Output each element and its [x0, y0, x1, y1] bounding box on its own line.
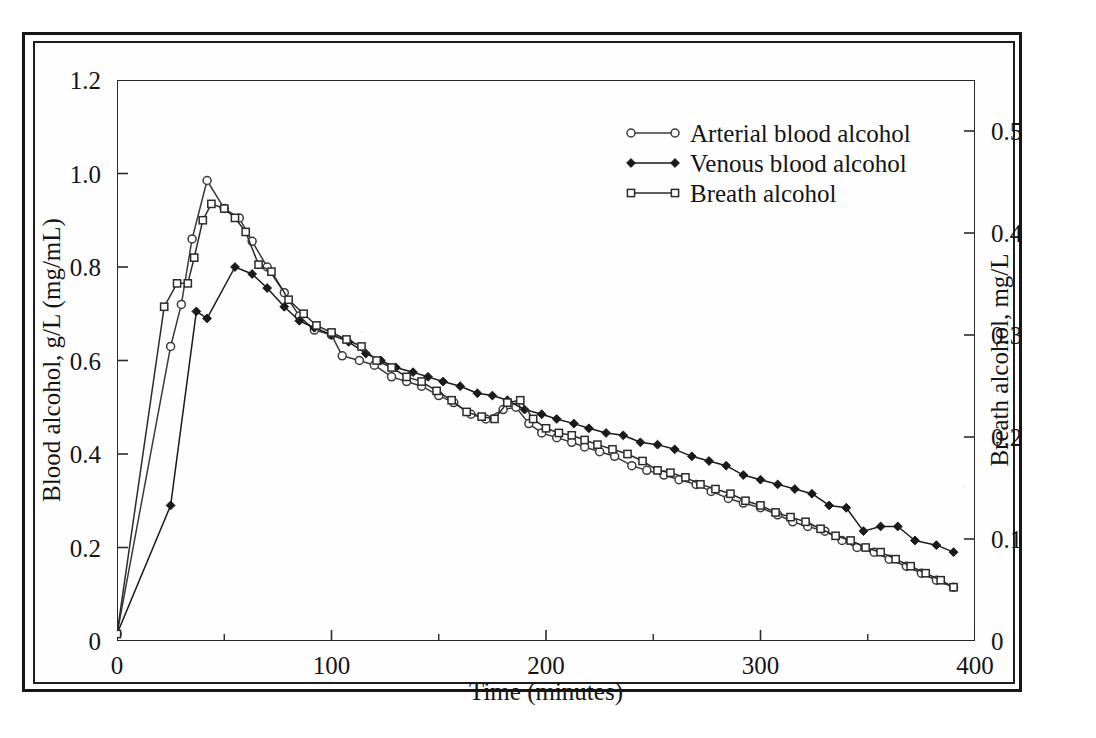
- data-point-marker: [825, 501, 834, 510]
- y-right-tick-label: 0: [991, 629, 1004, 654]
- data-point-marker: [473, 389, 482, 398]
- data-point-marker: [877, 549, 884, 556]
- data-point-marker: [542, 425, 549, 432]
- legend-item: Breath alcohol: [625, 178, 911, 208]
- data-point-marker: [488, 391, 497, 400]
- data-point-marker: [907, 563, 914, 570]
- data-point-marker: [682, 474, 689, 481]
- series-3: [117, 200, 957, 637]
- data-point-marker: [555, 429, 562, 436]
- data-point-marker: [569, 419, 578, 428]
- data-point-marker: [671, 189, 678, 196]
- data-point-marker: [313, 322, 320, 329]
- data-point-marker: [530, 415, 537, 422]
- data-point-marker: [161, 303, 168, 310]
- data-point-marker: [203, 314, 212, 323]
- data-point-marker: [950, 584, 957, 591]
- data-point-marker: [636, 438, 645, 447]
- data-point-marker: [627, 189, 634, 196]
- data-point-marker: [184, 280, 191, 287]
- data-point-marker: [433, 387, 440, 394]
- data-point-marker: [627, 159, 636, 168]
- data-point-marker: [166, 501, 175, 510]
- data-point-marker: [255, 261, 262, 268]
- data-point-marker: [221, 205, 228, 212]
- data-point-marker: [687, 452, 696, 461]
- data-point-marker: [300, 310, 307, 317]
- data-point-marker: [242, 228, 249, 235]
- data-point-marker: [338, 352, 346, 360]
- x-tick-label: 200: [527, 653, 565, 678]
- series-1: [117, 177, 958, 638]
- y-axis-left-title: Blood alcohol, g/L (mg/mL): [38, 218, 66, 502]
- data-point-marker: [772, 509, 779, 516]
- data-point-marker: [654, 467, 661, 474]
- data-point-marker: [117, 630, 121, 637]
- figure-root: 00.20.40.60.81.01.200.10.20.30.40.501002…: [0, 0, 1096, 738]
- data-point-marker: [892, 556, 899, 563]
- data-point-marker: [403, 373, 410, 380]
- data-point-marker: [585, 424, 594, 433]
- data-point-marker: [670, 445, 679, 454]
- data-point-marker: [862, 544, 869, 551]
- data-point-marker: [537, 410, 546, 419]
- series-2: [117, 263, 958, 639]
- data-point-marker: [594, 441, 601, 448]
- data-point-marker: [231, 214, 238, 221]
- data-point-marker: [832, 532, 839, 539]
- data-point-marker: [722, 461, 731, 470]
- legend-label: Arterial blood alcohol: [690, 121, 911, 146]
- data-point-marker: [581, 436, 588, 443]
- data-point-marker: [343, 336, 350, 343]
- data-point-marker: [624, 450, 631, 457]
- data-point-marker: [808, 489, 817, 498]
- data-point-marker: [268, 268, 275, 275]
- data-point-marker: [568, 432, 575, 439]
- data-point-marker: [491, 415, 498, 422]
- data-point-marker: [705, 457, 714, 466]
- data-point-marker: [177, 300, 185, 308]
- data-point-marker: [937, 577, 944, 584]
- x-tick-label: 100: [313, 653, 351, 678]
- data-point-marker: [358, 343, 365, 350]
- y-axis-right-title: Breath alcohol, mg/L: [986, 253, 1014, 466]
- chart-legend: Arterial blood alcoholVenous blood alcoh…: [625, 118, 911, 208]
- y-right-tick-label: 0.4: [991, 221, 1022, 246]
- data-point-marker: [448, 397, 455, 404]
- data-point-marker: [639, 457, 646, 464]
- x-tick-label: 300: [742, 653, 780, 678]
- data-point-marker: [188, 235, 196, 243]
- y-right-tick-label: 0.5: [991, 119, 1022, 144]
- data-point-marker: [922, 570, 929, 577]
- data-point-marker: [231, 263, 240, 272]
- data-point-marker: [727, 490, 734, 497]
- data-point-marker: [817, 525, 824, 532]
- x-tick-label: 0: [111, 653, 124, 678]
- y-left-tick-label: 0.2: [70, 535, 101, 560]
- data-point-marker: [478, 413, 485, 420]
- data-point-marker: [739, 471, 748, 480]
- y-left-tick-label: 1.2: [70, 68, 101, 93]
- y-left-tick-label: 0.8: [70, 255, 101, 280]
- data-point-marker: [671, 129, 679, 137]
- data-point-marker: [932, 541, 941, 550]
- data-point-marker: [203, 177, 211, 185]
- data-point-marker: [355, 357, 363, 365]
- x-axis-title: Time (minutes): [469, 678, 623, 706]
- data-point-marker: [949, 548, 958, 557]
- data-point-marker: [847, 537, 854, 544]
- legend-label: Venous blood alcohol: [690, 151, 907, 176]
- series-line: [117, 267, 954, 634]
- data-point-marker: [628, 462, 636, 470]
- data-point-marker: [504, 399, 511, 406]
- data-point-marker: [418, 378, 425, 385]
- data-point-marker: [627, 129, 635, 137]
- data-point-marker: [552, 415, 561, 424]
- data-point-marker: [697, 481, 704, 488]
- series-line: [117, 181, 954, 634]
- data-point-marker: [773, 480, 782, 489]
- data-point-marker: [643, 466, 651, 474]
- data-point-marker: [876, 522, 885, 531]
- data-point-marker: [742, 497, 749, 504]
- y-left-tick-label: 0.4: [70, 442, 101, 467]
